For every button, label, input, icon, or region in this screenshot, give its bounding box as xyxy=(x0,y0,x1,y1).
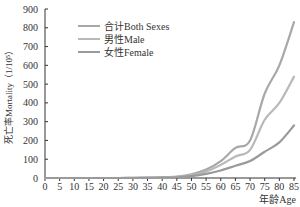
x-tick-label: 60 xyxy=(216,181,226,192)
y-tick-label: 100 xyxy=(23,154,38,165)
series-line xyxy=(45,77,294,178)
y-tick-label: 700 xyxy=(23,41,38,52)
y-tick-label: 500 xyxy=(23,79,38,90)
x-tick-label: 80 xyxy=(274,181,284,192)
series-lines xyxy=(45,22,294,178)
y-axis-label: 死亡率Mortality（1/10⁵） xyxy=(3,46,14,144)
x-tick-label: 5 xyxy=(57,181,62,192)
mortality-line-chart: 0100200300400500600700800900051015202530… xyxy=(0,0,300,207)
x-tick-label: 20 xyxy=(99,181,109,192)
x-tick-label: 70 xyxy=(245,181,255,192)
x-tick-label: 45 xyxy=(172,181,182,192)
x-tick-label: 65 xyxy=(230,181,240,192)
x-tick-label: 75 xyxy=(260,181,270,192)
x-tick-label: 85 xyxy=(289,181,299,192)
x-tick-label: 50 xyxy=(186,181,196,192)
series-line xyxy=(45,22,294,178)
x-tick-label: 35 xyxy=(143,181,153,192)
x-tick-label: 40 xyxy=(157,181,167,192)
x-tick-label: 0 xyxy=(43,181,48,192)
x-tick-label: 25 xyxy=(113,181,123,192)
series-line xyxy=(45,125,294,178)
x-tick-label: 10 xyxy=(69,181,79,192)
legend-label: 合计Both Sexes xyxy=(104,20,169,32)
y-tick-label: 800 xyxy=(23,22,38,33)
legend-label: 女性Female xyxy=(104,46,154,58)
y-tick-label: 300 xyxy=(23,116,38,127)
y-tick-label: 600 xyxy=(23,60,38,71)
x-axis-label: 年龄Age xyxy=(259,193,296,205)
legend: 合计Both Sexes男性Male女性Female xyxy=(78,20,169,58)
y-tick-label: 400 xyxy=(23,97,38,108)
x-tick-label: 15 xyxy=(84,181,94,192)
x-tick-label: 30 xyxy=(128,181,138,192)
y-tick-label: 900 xyxy=(23,4,38,15)
y-tick-label: 200 xyxy=(23,135,38,146)
legend-label: 男性Male xyxy=(104,33,145,45)
x-tick-label: 55 xyxy=(201,181,211,192)
y-tick-label: 0 xyxy=(33,173,38,184)
